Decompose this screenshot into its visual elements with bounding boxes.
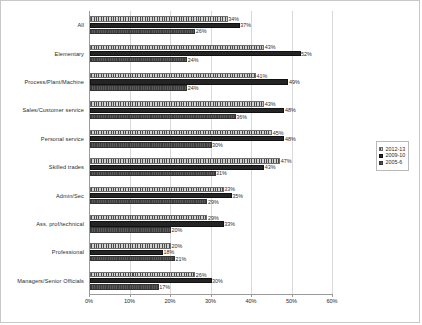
bar-value-label: 43% xyxy=(265,44,276,50)
category-label: Admin/Sec xyxy=(56,193,84,199)
bar-value-label: 31% xyxy=(216,170,227,176)
legend-label: 2012-13 xyxy=(386,147,406,152)
bar-value-label: 29% xyxy=(208,199,219,205)
bar-2012-13: 43% xyxy=(90,101,264,106)
bar-2009-10: 37% xyxy=(90,23,240,28)
bar-value-label: 37% xyxy=(240,22,251,28)
bar-2009-10: 35% xyxy=(90,193,232,198)
legend-item[interactable]: 2009-10 xyxy=(379,153,405,158)
bar-2005-6: 24% xyxy=(90,85,187,90)
bar-value-label: 41% xyxy=(257,73,268,79)
bar-2009-10: 48% xyxy=(90,108,284,113)
bar-2005-6: 20% xyxy=(90,227,171,232)
bar-2005-6: 29% xyxy=(90,199,207,204)
bar-2012-13: 26% xyxy=(90,272,195,277)
chart-frame: 0%10%20%30%40%50%60%All34%37%26%Elementa… xyxy=(0,0,420,323)
x-axis-tick xyxy=(332,294,333,297)
category-label: Ass. prof/technical xyxy=(36,221,84,227)
bar-value-label: 48% xyxy=(285,107,296,113)
legend-label: 2009-10 xyxy=(386,153,406,158)
category-label: Skilled trades xyxy=(49,164,84,170)
bar-2012-13: 33% xyxy=(90,187,224,192)
bar-2009-10: 48% xyxy=(90,136,284,141)
category-row: Skilled trades47%43%31% xyxy=(89,153,332,181)
bar-2009-10: 52% xyxy=(90,51,301,56)
category-row: Process/Plant/Machine41%49%24% xyxy=(89,68,332,96)
bar-2005-6: 30% xyxy=(90,142,212,147)
bar-value-label: 35% xyxy=(232,193,243,199)
x-axis-label: 40% xyxy=(245,298,256,304)
bar-value-label: 36% xyxy=(236,114,247,120)
legend-swatch-icon xyxy=(379,161,383,165)
bar-value-label: 29% xyxy=(208,215,219,221)
bar-value-label: 20% xyxy=(172,227,183,233)
x-axis-label: 0% xyxy=(85,298,93,304)
bar-2009-10: 33% xyxy=(90,221,224,226)
bar-value-label: 48% xyxy=(285,136,296,142)
plot-area: 0%10%20%30%40%50%60%All34%37%26%Elementa… xyxy=(89,11,409,295)
legend-item[interactable]: 2012-13 xyxy=(379,147,405,152)
bar-2005-6: 36% xyxy=(90,114,236,119)
category-row: Elementary43%52%24% xyxy=(89,39,332,67)
category-label: All xyxy=(77,22,84,28)
category-row: Admin/Sec33%35%29% xyxy=(89,181,332,209)
category-label: Process/Plant/Machine xyxy=(24,79,84,85)
category-label: Elementary xyxy=(55,51,84,57)
x-axis-label: 10% xyxy=(124,298,135,304)
chart-legend: 2012-132009-102005-6 xyxy=(376,141,409,171)
category-row: Ass. prof/technical29%33%20% xyxy=(89,210,332,238)
bar-2009-10: 30% xyxy=(90,278,212,283)
bar-value-label: 52% xyxy=(301,51,312,57)
legend-item[interactable]: 2005-6 xyxy=(379,160,405,165)
bar-value-label: 30% xyxy=(212,278,223,284)
bar-value-label: 33% xyxy=(224,221,235,227)
bar-2012-13: 20% xyxy=(90,243,171,248)
bar-2012-13: 29% xyxy=(90,215,207,220)
bar-2012-13: 41% xyxy=(90,73,256,78)
bar-2005-6: 24% xyxy=(90,57,187,62)
x-axis-label: 50% xyxy=(286,298,297,304)
category-label: Professional xyxy=(52,249,84,255)
bar-2012-13: 45% xyxy=(90,130,272,135)
bar-2005-6: 21% xyxy=(90,256,175,261)
x-axis-label: 60% xyxy=(326,298,337,304)
category-label: Personal service xyxy=(41,136,84,142)
bar-value-label: 26% xyxy=(196,28,207,34)
bar-value-label: 33% xyxy=(224,186,235,192)
bar-value-label: 45% xyxy=(273,130,284,136)
category-row: Professional20%18%21% xyxy=(89,238,332,266)
category-row: Personal service45%48%30% xyxy=(89,125,332,153)
bar-2005-6: 31% xyxy=(90,171,216,176)
bar-value-label: 24% xyxy=(188,85,199,91)
bar-2012-13: 43% xyxy=(90,45,264,50)
bar-value-label: 21% xyxy=(176,256,187,262)
bar-2009-10: 43% xyxy=(90,165,264,170)
legend-swatch-icon xyxy=(379,147,383,151)
category-label: Managers/Senior Officials xyxy=(17,278,84,284)
bar-2012-13: 47% xyxy=(90,158,280,163)
category-row: Sales/Customer service43%48%36% xyxy=(89,96,332,124)
bar-value-label: 43% xyxy=(265,101,276,107)
bar-value-label: 47% xyxy=(281,158,292,164)
gridline xyxy=(332,11,333,295)
bar-value-label: 30% xyxy=(212,142,223,148)
legend-swatch-icon xyxy=(379,154,383,158)
bar-2005-6: 17% xyxy=(90,284,159,289)
category-row: Managers/Senior Officials26%30%17% xyxy=(89,267,332,295)
category-row: All34%37%26% xyxy=(89,11,332,39)
category-label: Sales/Customer service xyxy=(22,107,84,113)
bar-2012-13: 34% xyxy=(90,16,228,21)
bar-value-label: 34% xyxy=(228,16,239,22)
x-axis-label: 20% xyxy=(164,298,175,304)
bar-value-label: 18% xyxy=(163,249,174,255)
bar-2009-10: 49% xyxy=(90,79,288,84)
bar-value-label: 20% xyxy=(172,243,183,249)
bars-region: 0%10%20%30%40%50%60%All34%37%26%Elementa… xyxy=(89,11,332,295)
bar-2009-10: 18% xyxy=(90,250,163,255)
bar-value-label: 49% xyxy=(289,79,300,85)
x-axis-label: 30% xyxy=(205,298,216,304)
bar-value-label: 17% xyxy=(159,284,170,290)
bar-value-label: 24% xyxy=(188,57,199,63)
bar-value-label: 26% xyxy=(196,272,207,278)
legend-label: 2005-6 xyxy=(386,160,403,165)
